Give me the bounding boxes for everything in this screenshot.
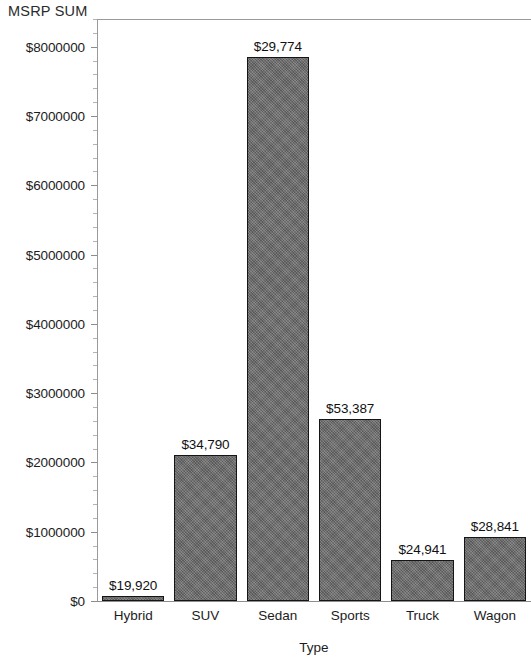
y-axis-tick-label: $7000000	[26, 109, 85, 124]
bars-layer: $19,920$34,790$29,774$53,387$24,941$28,8…	[97, 19, 531, 601]
y-axis-tick-label: $3000000	[26, 386, 85, 401]
y-axis-tick-label: $5000000	[26, 247, 85, 262]
x-axis-line	[91, 601, 531, 602]
y-axis-tick-label: $4000000	[26, 316, 85, 331]
bar-slot: $24,941	[391, 19, 453, 601]
bar-slot: $34,790	[174, 19, 236, 601]
y-axis-tick-label: $1000000	[26, 524, 85, 539]
bar-truck[interactable]	[391, 560, 453, 601]
y-axis-tick-label: $0	[70, 594, 85, 609]
bar-slot: $28,841	[464, 19, 526, 601]
y-axis-tick-label: $2000000	[26, 455, 85, 470]
x-axis: HybridSUVSedanSportsTruckWagon	[97, 608, 531, 632]
y-axis: $8000000$7000000$6000000$5000000$4000000…	[0, 0, 97, 670]
x-axis-title: Type	[97, 640, 531, 655]
bar-slot: $19,920	[102, 19, 164, 601]
bar-wagon[interactable]	[464, 537, 526, 601]
x-axis-tick-label: Sports	[331, 608, 370, 623]
y-axis-tick-label: $6000000	[26, 178, 85, 193]
bar-value-label: $34,790	[181, 437, 229, 452]
bar-slot: $53,387	[319, 19, 381, 601]
bar-sedan[interactable]	[247, 57, 309, 601]
bar-sports[interactable]	[319, 419, 381, 601]
bar-suv[interactable]	[174, 455, 236, 601]
bar-value-label: $19,920	[109, 578, 157, 593]
bar-value-label: $53,387	[326, 401, 374, 416]
bar-chart: MSRP SUM $8000000$7000000$6000000$500000…	[0, 0, 531, 670]
x-axis-tick-label: Sedan	[258, 608, 297, 623]
x-axis-tick-label: Truck	[406, 608, 439, 623]
x-axis-tick-label: Wagon	[474, 608, 516, 623]
x-axis-tick-label: SUV	[192, 608, 220, 623]
bar-value-label: $28,841	[471, 519, 519, 534]
plot-area: $19,920$34,790$29,774$53,387$24,941$28,8…	[97, 19, 531, 601]
bar-value-label: $29,774	[254, 39, 302, 54]
y-axis-tick-label: $8000000	[26, 39, 85, 54]
bar-value-label: $24,941	[398, 542, 446, 557]
x-axis-tick-label: Hybrid	[114, 608, 153, 623]
bar-slot: $29,774	[247, 19, 309, 601]
